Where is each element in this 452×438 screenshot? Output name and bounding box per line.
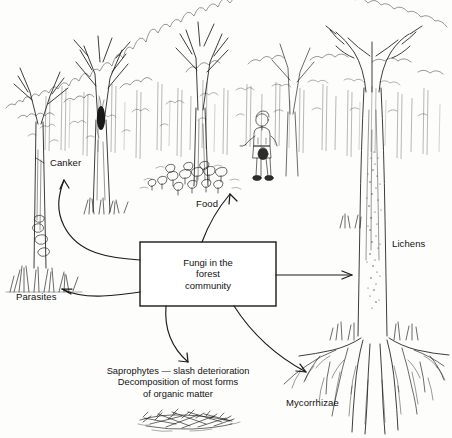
center-box-text: Fungi in the forest community bbox=[140, 242, 276, 306]
saprophytes-line-2: Decomposition of most forms bbox=[78, 377, 278, 388]
label-parasites: Parasites bbox=[16, 291, 57, 302]
saprophytes-line-3: of organic matter bbox=[78, 389, 278, 400]
center-box-line-2: forest bbox=[196, 268, 220, 280]
figure-canvas: .ln{fill:none;stroke:#1a1a1a;stroke-line… bbox=[0, 0, 452, 438]
label-mycorrhizae: Mycorrhizae bbox=[286, 397, 339, 408]
saprophytes-line-1: Saprophytes — slash deterioration bbox=[78, 366, 278, 377]
label-lichens: Lichens bbox=[392, 238, 425, 249]
saprophytes-note: Saprophytes — slash deterioration Decomp… bbox=[78, 366, 278, 400]
center-box-line-3: community bbox=[185, 280, 231, 292]
label-canker: Canker bbox=[50, 157, 81, 168]
label-food: Food bbox=[196, 198, 218, 209]
center-box-line-1: Fungi in the bbox=[183, 257, 233, 269]
